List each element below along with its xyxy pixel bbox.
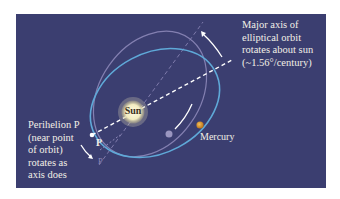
sun-label: Sun	[122, 105, 144, 118]
perihelion-label: Perihelion P (near point of orbit) rotat…	[28, 119, 88, 182]
perihelion-point	[90, 133, 95, 138]
current-orbit	[71, 27, 238, 179]
previous-major-axis	[99, 22, 203, 165]
previous-planet	[166, 131, 173, 138]
previous-orbit	[70, 10, 230, 179]
previous-perihelion-point-label: P	[98, 155, 103, 168]
mercury-label: Mercury	[200, 131, 234, 144]
perihelion-point-label: P	[96, 137, 102, 150]
major-axis-label: Major axis of elliptical orbit rotates a…	[242, 19, 332, 69]
rotation-arrow	[203, 34, 222, 57]
mercury-icon	[196, 121, 203, 128]
